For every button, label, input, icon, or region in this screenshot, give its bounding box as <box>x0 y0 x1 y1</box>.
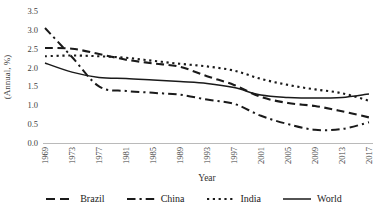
legend-item-china: China <box>126 193 185 204</box>
x-tick-label: 1993 <box>202 147 212 164</box>
x-tick-label: 1969 <box>40 147 50 164</box>
y-tick-label: 0.0 <box>27 138 38 148</box>
y-tick-label: 2.0 <box>27 63 38 73</box>
x-tick-label: 2017 <box>364 147 374 164</box>
x-tick-label: 1981 <box>121 147 131 164</box>
x-axis-title: Year <box>198 173 216 183</box>
x-tick-label: 1973 <box>67 147 77 164</box>
y-tick-label: 3.0 <box>27 25 38 35</box>
chart-canvas: (Annual, %) Year 0.00.51.01.52.02.53.03.… <box>0 0 387 188</box>
y-tick-label: 3.5 <box>27 6 38 16</box>
x-tick-label: 2009 <box>310 147 320 164</box>
x-tick-label: 1989 <box>175 147 185 164</box>
china-line-sample-icon <box>126 196 156 202</box>
series-line-china <box>45 28 369 130</box>
legend-item-world: World <box>282 193 342 204</box>
y-tick-label: 0.5 <box>27 119 38 129</box>
series-line-world <box>45 63 369 98</box>
india-line-sample-icon <box>206 196 236 202</box>
legend-label-china: China <box>161 193 185 204</box>
y-tick-label: 1.0 <box>27 100 38 110</box>
y-tick-label: 1.5 <box>27 81 38 91</box>
legend-label-india: India <box>241 193 262 204</box>
legend-item-brazil: Brazil <box>45 193 104 204</box>
population-growth-chart: (Annual, %) Year 0.00.51.01.52.02.53.03.… <box>0 0 387 213</box>
y-axis-title: (Annual, %) <box>2 55 12 100</box>
x-tick-label: 1985 <box>148 147 158 164</box>
x-tick-label: 2005 <box>283 147 293 164</box>
x-tick-label: 2013 <box>337 147 347 164</box>
y-tick-label: 2.5 <box>27 44 38 54</box>
world-line-sample-icon <box>282 196 312 202</box>
brazil-line-sample-icon <box>45 196 75 202</box>
legend-item-india: India <box>206 193 262 204</box>
x-tick-label: 2001 <box>256 147 266 164</box>
x-tick-label: 1977 <box>94 147 104 164</box>
x-tick-label: 1997 <box>229 147 239 164</box>
legend-label-brazil: Brazil <box>80 193 104 204</box>
legend-label-world: World <box>317 193 342 204</box>
legend: Brazil China India World <box>0 193 387 204</box>
series-line-india <box>45 56 369 101</box>
